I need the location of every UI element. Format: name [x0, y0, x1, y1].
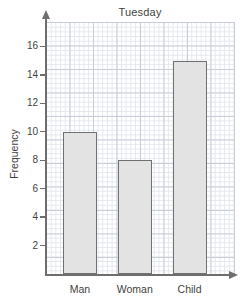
- y-axis-tick: [40, 245, 46, 246]
- y-axis-tick-label: 10: [16, 127, 38, 137]
- y-axis-tick: [40, 46, 46, 47]
- y-axis-arrow-icon: [42, 10, 50, 19]
- chart-title: Tuesday: [60, 6, 220, 18]
- y-axis-tick: [40, 160, 46, 161]
- bar-chart: Tuesday Frequency 246810121416 ManWomanC…: [0, 0, 248, 305]
- y-axis-tick: [40, 74, 46, 75]
- y-axis-tick: [40, 216, 46, 217]
- bar-child: [173, 61, 207, 274]
- y-axis-tick-label: 16: [16, 41, 38, 51]
- y-axis-tick-label: 6: [16, 184, 38, 194]
- x-axis-label-child: Child: [150, 283, 230, 295]
- y-axis-tick: [40, 103, 46, 104]
- y-axis-tick-label: 12: [16, 98, 38, 108]
- y-axis-tick: [40, 188, 46, 189]
- x-axis-line: [45, 274, 230, 276]
- y-axis-tick-label: 2: [16, 241, 38, 251]
- x-axis-arrow-icon: [229, 271, 238, 279]
- y-axis-tick-label: 8: [16, 155, 38, 165]
- bar-man: [63, 132, 97, 274]
- bar-woman: [118, 160, 152, 274]
- y-axis-tick-label: 14: [16, 70, 38, 80]
- y-axis-line: [45, 18, 47, 276]
- y-axis-tick-label: 4: [16, 212, 38, 222]
- y-axis-tick: [40, 131, 46, 132]
